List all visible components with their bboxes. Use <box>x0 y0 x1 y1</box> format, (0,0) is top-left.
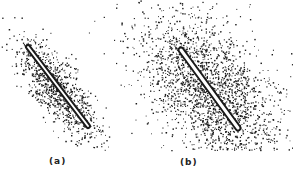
stippled-figure <box>0 0 293 178</box>
panel-a-particle-cloud <box>2 17 111 151</box>
panel-b-label: (b) <box>180 157 198 167</box>
panel-b-particle-cloud <box>89 0 293 151</box>
rod-core <box>28 47 88 126</box>
panel-a-label: (a) <box>49 156 66 166</box>
